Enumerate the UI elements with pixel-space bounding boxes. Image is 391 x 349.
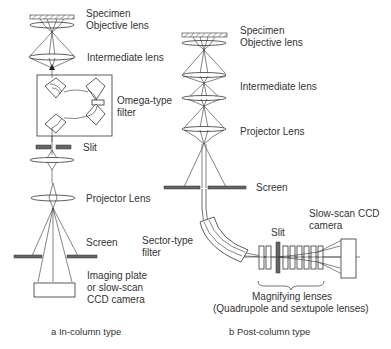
label-magnifying-1: Magnifying lenses — [252, 291, 332, 302]
imaging-plate-a — [34, 283, 75, 297]
label-intermediate-lens-b: Intermediate lens — [240, 81, 317, 92]
label-detector-1: Imaging plate — [87, 270, 147, 281]
label-omega-filter-1: Omega-type — [117, 95, 172, 106]
omega-filter-magnets — [45, 70, 105, 142]
label-objective-lens-b: Objective lens — [240, 37, 303, 48]
label-specimen-b: Specimen — [240, 25, 284, 36]
label-specimen-a: Specimen — [86, 8, 130, 19]
label-slit-a: Slit — [83, 142, 97, 153]
label-projector-lens-b: Projector Lens — [240, 126, 304, 137]
label-screen-a: Screen — [86, 237, 118, 248]
label-screen-b: Screen — [256, 182, 288, 193]
panel-b-post-column: Specimen Objective lens Intermediate len… — [142, 25, 380, 337]
sector-filter — [200, 217, 248, 262]
label-camera-1: Slow-scan CCD — [309, 208, 380, 219]
projector-lens-b — [182, 127, 226, 132]
specimen-a — [30, 15, 74, 19]
label-magnifying-2: (Quadrupole and sextupole lenses) — [213, 303, 369, 314]
intermediate-lens-b1 — [182, 73, 226, 78]
label-sector-filter-2: filter — [142, 247, 162, 258]
label-detector-2: or slow-scan — [87, 282, 143, 293]
panel-a-in-column: Specimen Objective lens Intermediate len… — [14, 8, 172, 337]
label-omega-filter-2: filter — [117, 107, 137, 118]
label-detector-3: CCD camera — [87, 294, 145, 305]
screen-b — [164, 186, 200, 189]
label-intermediate-lens-a: Intermediate lens — [87, 52, 164, 63]
energy-filter-diagram: Specimen Objective lens Intermediate len… — [0, 0, 391, 349]
slit-b — [276, 242, 280, 273]
objective-lens-b — [182, 41, 226, 46]
caption-a: a In-column type — [51, 326, 121, 337]
ccd-camera-b — [341, 239, 356, 278]
label-projector-lens-a: Projector Lens — [86, 193, 150, 204]
label-sector-filter-1: Sector-type — [142, 235, 194, 246]
intermediate-lens-b2 — [182, 96, 226, 101]
label-slit-b: Slit — [271, 227, 285, 238]
magnifying-lenses-brace — [258, 281, 324, 290]
label-camera-2: camera — [309, 220, 343, 231]
magnifying-lenses — [259, 242, 323, 273]
label-objective-lens-a: Objective lens — [86, 20, 149, 31]
intermediate-lens-a — [29, 54, 75, 60]
slit-a — [36, 145, 51, 149]
specimen-b — [182, 33, 227, 37]
screen-a — [14, 255, 42, 258]
projector-lens-a — [31, 195, 75, 201]
caption-b: b Post-column type — [229, 326, 310, 337]
objective-lens-a — [30, 22, 74, 28]
